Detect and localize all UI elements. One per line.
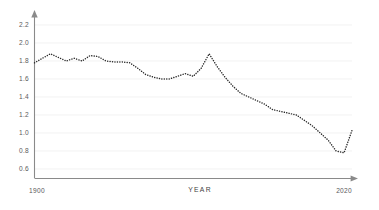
x-tick-label-start: 1900 bbox=[29, 187, 45, 194]
y-tick-label: 1.0 bbox=[19, 129, 29, 136]
y-tick-label: 2.0 bbox=[19, 39, 29, 46]
x-axis-title: YEAR bbox=[188, 186, 212, 193]
y-axis-tick-labels: 2.22.01.81.61.41.21.00.80.6 bbox=[19, 21, 29, 172]
line-chart: 2.22.01.81.61.41.21.00.80.6 1900 2020 YE… bbox=[0, 0, 379, 210]
y-tick-label: 0.6 bbox=[19, 165, 29, 172]
x-tick-label-end: 2020 bbox=[336, 187, 352, 194]
data-series-line bbox=[35, 54, 353, 153]
x-axis bbox=[35, 175, 359, 181]
y-tick-label: 1.4 bbox=[19, 93, 29, 100]
y-tick-label: 1.8 bbox=[19, 57, 29, 64]
chart-container: 2.22.01.81.61.41.21.00.80.6 1900 2020 YE… bbox=[0, 0, 379, 210]
y-tick-label: 0.8 bbox=[19, 147, 29, 154]
y-tick-label: 2.2 bbox=[19, 21, 29, 28]
gridlines bbox=[35, 25, 353, 169]
x-axis-arrowhead bbox=[351, 175, 358, 181]
y-axis-arrowhead bbox=[31, 10, 37, 18]
y-tick-label: 1.6 bbox=[19, 75, 29, 82]
y-axis bbox=[31, 10, 37, 178]
y-tick-label: 1.2 bbox=[19, 111, 29, 118]
